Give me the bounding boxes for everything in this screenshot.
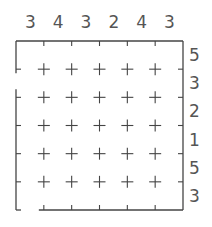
grid-cell[interactable] — [16, 69, 44, 97]
grid-cell[interactable] — [72, 41, 100, 69]
grid-cell[interactable] — [72, 126, 100, 154]
grid-cell[interactable] — [44, 41, 72, 69]
grid-cell[interactable] — [44, 97, 72, 125]
grid-cell[interactable] — [44, 154, 72, 182]
grid-cell[interactable] — [100, 154, 128, 182]
grid-cell[interactable] — [127, 41, 155, 69]
top-clue: 2 — [108, 12, 119, 32]
grid-cell[interactable] — [16, 154, 44, 182]
top-clue: 3 — [25, 12, 36, 32]
grid-cell[interactable] — [16, 182, 44, 210]
grid-cell[interactable] — [127, 69, 155, 97]
top-clues: 343243 — [25, 12, 175, 32]
right-clue: 5 — [189, 158, 200, 178]
puzzle-board: 343243 532153 — [0, 0, 212, 227]
grid-cell[interactable] — [72, 154, 100, 182]
right-clues: 532153 — [189, 45, 200, 206]
grid-cell[interactable] — [127, 182, 155, 210]
top-clue: 3 — [164, 12, 175, 32]
top-clue: 3 — [81, 12, 92, 32]
grid-cell[interactable] — [100, 182, 128, 210]
grid-cell[interactable] — [127, 97, 155, 125]
right-clue: 3 — [189, 186, 200, 206]
grid-cell[interactable] — [127, 126, 155, 154]
cells — [16, 41, 183, 210]
right-clue: 2 — [189, 101, 200, 121]
grid-cell[interactable] — [44, 126, 72, 154]
grid-cell[interactable] — [72, 182, 100, 210]
grid-cell[interactable] — [72, 97, 100, 125]
grid-cell[interactable] — [155, 182, 183, 210]
grid-cell[interactable] — [16, 97, 44, 125]
grid-cell[interactable] — [16, 41, 44, 69]
grid-cell[interactable] — [44, 69, 72, 97]
grid-cell[interactable] — [127, 154, 155, 182]
right-clue: 5 — [189, 45, 200, 65]
top-clue: 4 — [136, 12, 147, 32]
grid-cell[interactable] — [72, 69, 100, 97]
grid-cell[interactable] — [155, 97, 183, 125]
grid-cell[interactable] — [44, 182, 72, 210]
top-clue: 4 — [53, 12, 64, 32]
grid-cell[interactable] — [155, 41, 183, 69]
grid-cell[interactable] — [100, 41, 128, 69]
right-clue: 1 — [189, 130, 200, 150]
right-clue: 3 — [189, 73, 200, 93]
grid-cell[interactable] — [155, 154, 183, 182]
grid-cell[interactable] — [100, 69, 128, 97]
grid-cell[interactable] — [100, 97, 128, 125]
grid-cell[interactable] — [100, 126, 128, 154]
grid-cell[interactable] — [16, 126, 44, 154]
grid-cell[interactable] — [155, 69, 183, 97]
grid-cell[interactable] — [155, 126, 183, 154]
